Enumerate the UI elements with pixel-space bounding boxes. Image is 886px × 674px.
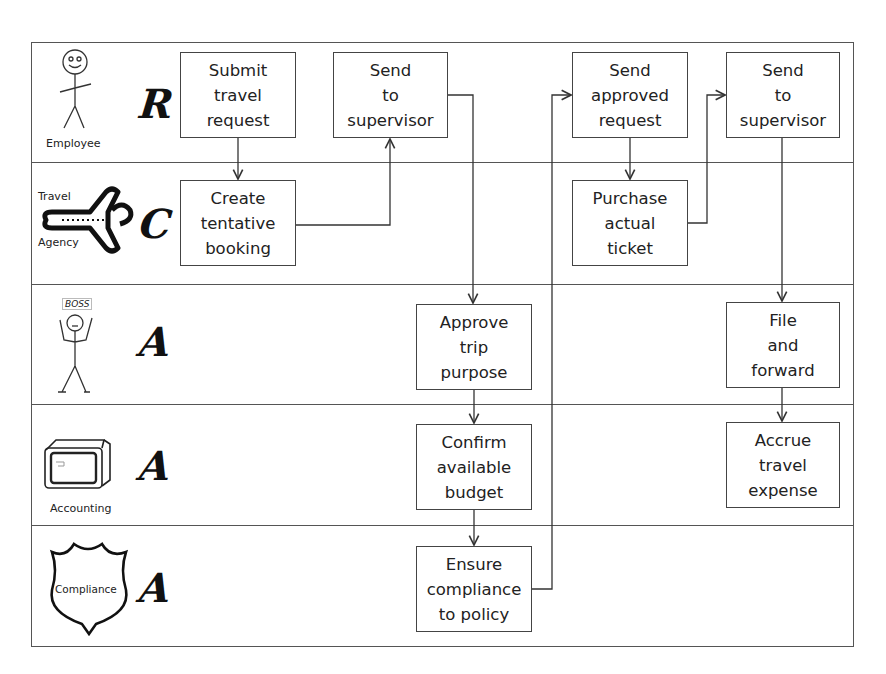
raci-letter-accountable: A bbox=[138, 442, 174, 489]
step-accrue-travel-expense: Accrue travel expense bbox=[726, 422, 840, 508]
actor-label-employee: Employee bbox=[46, 137, 100, 150]
step-confirm-available-budget: Confirm available budget bbox=[416, 424, 532, 510]
boss-stick-figure-icon bbox=[52, 310, 102, 400]
raci-letter-responsible: R bbox=[138, 80, 176, 127]
step-ensure-compliance: Ensure compliance to policy bbox=[416, 546, 532, 632]
actor-label-accounting: Accounting bbox=[50, 502, 111, 515]
actor-label-agency: Agency bbox=[38, 236, 79, 249]
step-send-to-supervisor: Send to supervisor bbox=[333, 52, 448, 138]
actor-label-compliance: Compliance bbox=[55, 583, 117, 595]
boss-badge: BOSS bbox=[62, 298, 92, 310]
step-purchase-actual-ticket: Purchase actual ticket bbox=[572, 180, 688, 266]
step-approve-trip-purpose: Approve trip purpose bbox=[416, 304, 532, 390]
raci-letter-accountable: A bbox=[138, 318, 174, 365]
step-file-and-forward: File and forward bbox=[726, 302, 840, 388]
step-submit-travel-request: Submit travel request bbox=[180, 52, 296, 138]
raci-letter-consulted: C bbox=[138, 200, 175, 247]
step-send-to-supervisor-2: Send to supervisor bbox=[726, 52, 840, 138]
step-create-tentative-booking: Create tentative booking bbox=[180, 180, 296, 266]
stick-figure-icon bbox=[52, 48, 102, 138]
raci-letter-accountable: A bbox=[138, 564, 174, 611]
actor-label-travel: Travel bbox=[38, 190, 71, 203]
computer-monitor-icon bbox=[42, 420, 132, 500]
step-send-approved-request: Send approved request bbox=[572, 52, 688, 138]
